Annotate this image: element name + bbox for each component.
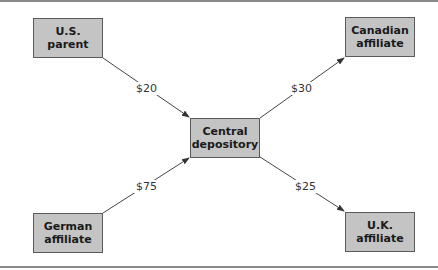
node-line1: Canadian: [351, 24, 409, 37]
node-german-affiliate: German affiliate: [33, 213, 103, 253]
node-canadian-affiliate: Canadian affiliate: [345, 17, 415, 57]
node-line2: depository: [192, 138, 259, 151]
edge-label-central-uk: $25: [293, 180, 318, 193]
edge-label-central-canadian: $30: [289, 82, 314, 95]
edge-label-german-central: $75: [134, 180, 159, 193]
node-uk-affiliate: U.K. affiliate: [345, 212, 415, 252]
node-line1: U.K.: [367, 219, 393, 232]
node-central-depository: Central depository: [190, 118, 260, 158]
node-line2: affiliate: [356, 37, 403, 50]
node-line1: U.S.: [55, 25, 80, 38]
node-line2: parent: [47, 38, 88, 51]
edge-label-us-central: $20: [134, 82, 159, 95]
node-line1: Central: [202, 125, 247, 138]
node-line2: affiliate: [44, 233, 91, 246]
node-line1: German: [44, 220, 93, 233]
node-us-parent: U.S. parent: [33, 18, 103, 58]
node-line2: affiliate: [356, 232, 403, 245]
